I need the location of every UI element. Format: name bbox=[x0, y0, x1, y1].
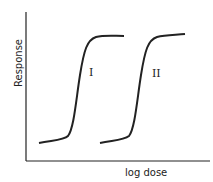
dose-response-diagram: I II Response log dose bbox=[0, 0, 213, 182]
curve-ii bbox=[100, 34, 185, 143]
curve-ii-label: II bbox=[152, 67, 161, 80]
curve-i-label: I bbox=[89, 66, 93, 79]
curve-i bbox=[39, 36, 124, 143]
x-axis-label: log dose bbox=[125, 167, 167, 178]
y-axis-label: Response bbox=[13, 39, 24, 87]
